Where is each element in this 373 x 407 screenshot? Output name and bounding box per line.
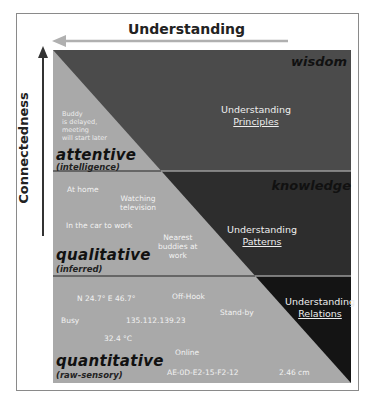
example-coordinates: N 24.7° E 46.7°: [77, 294, 135, 303]
category-attentive-subtitle: (intelligence): [56, 162, 120, 172]
example-in-car-to-work: In the car to work: [66, 221, 132, 230]
category-quantitative: quantitative: [56, 352, 164, 370]
diagram-bands: [53, 50, 351, 383]
example-temperature: 32.4 °C: [104, 334, 132, 343]
example-ip-address: 135.112.139.23: [126, 316, 186, 325]
example-stand-by: Stand-by: [220, 308, 254, 317]
example-at-home: At home: [67, 185, 99, 194]
connectedness-axis-label: Connectedness: [16, 92, 31, 203]
dikw-diagram: wisdom knowledge Understanding Principle…: [53, 50, 351, 383]
example-nearest-buddies: Nearest buddies at work: [158, 233, 198, 260]
understanding-arrow-icon: [50, 34, 290, 48]
category-quantitative-subtitle: (raw-sensory): [56, 370, 123, 380]
example-off-hook: Off-Hook: [172, 292, 205, 301]
example-buddy-delayed: Buddy is delayed, meeting will start lat…: [62, 110, 107, 142]
connectedness-arrow-icon: [36, 46, 50, 236]
category-qualitative: qualitative: [56, 246, 151, 264]
understanding-relations: Understanding Relations: [285, 296, 355, 320]
example-online: Online: [175, 348, 199, 357]
example-mac-address: AE-0D-E2-15-F2-12: [167, 368, 239, 377]
category-qualitative-subtitle: (inferred): [56, 264, 102, 274]
example-distance: 2.46 cm: [279, 368, 310, 377]
level-knowledge: knowledge: [271, 178, 351, 193]
example-busy: Busy: [61, 316, 79, 325]
understanding-principles: Understanding Principles: [221, 104, 291, 128]
level-wisdom: wisdom: [291, 54, 347, 69]
understanding-patterns: Understanding Patterns: [227, 224, 297, 248]
example-watching-television: Watching television: [120, 194, 156, 212]
